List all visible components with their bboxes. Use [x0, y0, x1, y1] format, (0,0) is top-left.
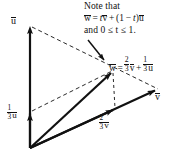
vector-diagram: Note that w=tv+(1−t)u and 0 ≤ t ≤ 1. w=2… [0, 0, 184, 163]
note-w-symbol: w [84, 14, 91, 24]
w-eq-v-symbol: v [130, 64, 135, 74]
w-eq-w-symbol: w [109, 64, 116, 74]
vector-twothird-v-label: 23v [99, 114, 109, 131]
w-eq-u-symbol: u [148, 64, 153, 74]
note-u-symbol: u [139, 14, 144, 24]
note-annotation: Note that w=tv+(1−t)u and 0 ≤ t ≤ 1. [84, 2, 144, 38]
w-eq-plus: + [134, 63, 142, 73]
note-leader-arrow [88, 40, 104, 60]
w-eq-coefficient-two-thirds: 23 [124, 56, 129, 73]
w-eq-coefficient-one-third: 13 [143, 56, 148, 73]
dashed-line-thirdu-to-w [32, 71, 112, 111]
vector-v-label: v [155, 92, 160, 103]
twothird-v-fraction: 23 [99, 114, 104, 130]
note-plus: + [107, 13, 116, 23]
third-u-fraction: 13 [7, 104, 12, 120]
note-line-3: and 0 ≤ t ≤ 1. [84, 26, 144, 38]
w-equation-label: w=23v+13u [109, 56, 153, 74]
vector-w [30, 73, 111, 148]
note-minus: − [124, 13, 133, 23]
note-v-symbol: v [102, 14, 107, 24]
vector-u-label: u [11, 16, 16, 27]
dashed-line-w-to-twothirdv [113, 73, 115, 108]
vector-third-u-label: 13u [7, 104, 17, 121]
note-equals: = [91, 13, 100, 23]
w-eq-equals: = [116, 63, 124, 73]
